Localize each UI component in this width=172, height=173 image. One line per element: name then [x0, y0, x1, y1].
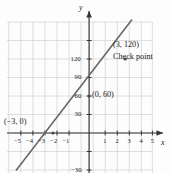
data-point-0-60 [88, 94, 91, 97]
y-tick-label-neg-30: −30 [71, 167, 82, 173]
x-axis [7, 130, 163, 136]
x-tick-label-neg-4: −4 [26, 138, 33, 145]
y-axis-label: y [79, 4, 83, 12]
x-tick-label-neg-5: −5 [14, 138, 21, 145]
annotation-point-neg3-0: (−3, 0) [4, 118, 26, 126]
x-tick-label-2: 2 [115, 138, 118, 145]
x-tick-label-4: 4 [140, 138, 143, 145]
annotation-point-0-60: (0, 60) [92, 91, 114, 99]
x-tick-label-neg-3: −3 [38, 138, 45, 145]
x-axis-label: x [161, 139, 165, 147]
graph-figure: y x −5 −4 −3 −2 −1 1 2 3 4 5 120 90 60 3… [0, 0, 172, 173]
x-tick-label-neg-2: −2 [50, 138, 57, 145]
annotation-point-3-120: (3, 120) [113, 41, 139, 49]
y-tick-label-60: 60 [75, 93, 82, 100]
x-tick-label-1: 1 [103, 138, 106, 145]
coordinate-plane-svg [0, 0, 172, 173]
y-tick-label-30: 30 [75, 111, 82, 118]
y-tick-label-120: 120 [71, 56, 81, 63]
x-tick-label-5: 5 [151, 138, 154, 145]
annotation-check-point: Check point [113, 53, 153, 61]
data-point-neg3-0 [51, 131, 54, 134]
x-tick-label-neg-1: −1 [62, 138, 69, 145]
y-tick-label-90: 90 [75, 74, 82, 81]
x-tick-label-3: 3 [128, 138, 131, 145]
